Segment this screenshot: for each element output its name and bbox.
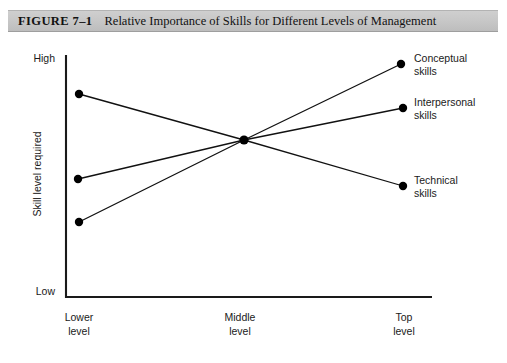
series-label-conceptual: Conceptual skills: [414, 52, 467, 78]
data-point-interpersonal-lower: [74, 175, 82, 183]
data-point-interpersonal-top: [399, 104, 407, 112]
x-axis-tick-middle-level: Middle level: [180, 311, 300, 338]
x-axis-tick-middle-level-line1: Middle: [180, 311, 300, 325]
y-axis-tick-high: High: [33, 52, 55, 65]
chart-plot-area: High Low Skill level required Lower leve…: [0, 36, 507, 363]
series-label-interpersonal: Interpersonal skills: [414, 96, 475, 122]
figure-caption-bar: FIGURE 7–1 Relative Importance of Skills…: [8, 10, 498, 32]
x-axis-tick-top-level-line2: level: [344, 325, 464, 339]
x-axis-tick-lower-level-line1: Lower: [19, 311, 139, 325]
series-label-technical: Technical skills: [414, 174, 458, 200]
data-point-technical-lower: [75, 90, 83, 98]
series-label-technical-line1: Technical: [414, 174, 458, 187]
series-line-interpersonal: [78, 108, 403, 179]
x-axis-tick-middle-level-line2: level: [180, 325, 300, 339]
data-point-crossing-middle: [239, 135, 248, 144]
chart-axes: [66, 55, 432, 297]
series-label-interpersonal-line2: skills: [414, 109, 475, 122]
figure-title: Relative Importance of Skills for Differ…: [105, 14, 437, 29]
x-axis-tick-lower-level-line2: level: [19, 325, 139, 339]
series-label-technical-line2: skills: [414, 187, 458, 200]
y-axis-title: Skill level required: [31, 99, 43, 249]
series-label-conceptual-line1: Conceptual: [414, 52, 467, 65]
series-label-interpersonal-line1: Interpersonal: [414, 96, 475, 109]
y-axis-tick-low: Low: [36, 285, 55, 298]
data-point-technical-top: [399, 182, 407, 190]
data-point-conceptual-top: [397, 60, 405, 68]
data-point-conceptual-lower: [75, 218, 83, 226]
figure-number-label: FIGURE 7–1: [18, 14, 93, 29]
x-axis-tick-lower-level: Lower level: [19, 311, 139, 338]
x-axis-tick-top-level: Top level: [344, 311, 464, 338]
x-axis-tick-top-level-line1: Top: [344, 311, 464, 325]
series-label-conceptual-line2: skills: [414, 65, 467, 78]
series-line-conceptual: [79, 64, 401, 222]
